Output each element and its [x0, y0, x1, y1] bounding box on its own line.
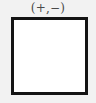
region-box [11, 17, 88, 95]
region-box-interior [14, 20, 85, 92]
sign-region-figure: (+,−) [0, 0, 96, 103]
sign-pair-label: (+,−) [0, 0, 96, 16]
